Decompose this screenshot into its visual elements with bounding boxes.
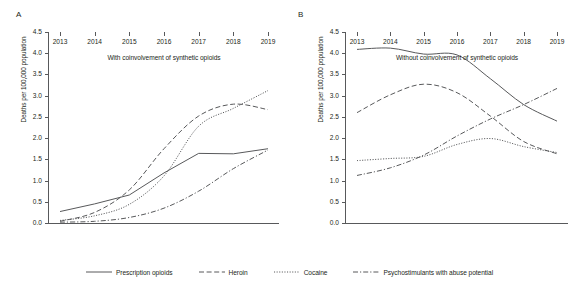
legend-label: Heroin <box>229 269 248 276</box>
x-axis-tick <box>164 32 165 36</box>
y-axis-tick: 4.5 <box>45 32 49 33</box>
y-axis-tick-label: 1.5 <box>33 155 42 162</box>
y-axis-tick-label: 3.5 <box>330 70 339 77</box>
x-axis-tick <box>390 32 391 36</box>
y-axis-tick-label: 3.0 <box>330 92 339 99</box>
legend-item: Heroin <box>199 268 248 276</box>
y-axis-tick: 3.0 <box>45 96 49 97</box>
y-axis-tick-label: 1.0 <box>33 177 42 184</box>
x-axis-tick <box>357 32 358 36</box>
x-axis-tick-label: 2019 <box>550 38 565 45</box>
x-axis-tick <box>268 32 269 36</box>
x-axis-tick-label: 2015 <box>416 38 431 45</box>
y-axis-tick-label: 4.5 <box>330 28 339 35</box>
plot-area-a: With coinvolvement of synthetic opioids … <box>48 32 279 224</box>
y-axis-tick: 1.5 <box>342 159 346 160</box>
x-axis-tick <box>557 32 558 36</box>
y-axis-tick: 0.5 <box>45 202 49 203</box>
y-axis-tick-label: 1.5 <box>330 155 339 162</box>
x-axis-label-b: Without coinvolvement of synthetic opioi… <box>346 54 568 61</box>
legend-line-swatch <box>274 268 300 276</box>
x-axis-tick <box>490 32 491 36</box>
series-line-psychostimulants-with-abuse-potential <box>357 88 557 175</box>
y-axis-tick: 4.0 <box>342 53 346 54</box>
x-axis-tick <box>129 32 130 36</box>
y-axis-tick-label: 2.0 <box>33 134 42 141</box>
x-axis-tick <box>424 32 425 36</box>
legend-item: Prescription opioids <box>86 268 173 276</box>
y-axis-tick: 3.0 <box>342 96 346 97</box>
x-axis-tick-label: 2013 <box>53 38 68 45</box>
x-axis-tick-label: 2016 <box>157 38 172 45</box>
x-axis-tick-label: 2019 <box>261 38 276 45</box>
y-axis-tick: 1.5 <box>45 159 49 160</box>
y-axis-tick-label: 4.0 <box>330 49 339 56</box>
y-axis-tick: 2.5 <box>45 117 49 118</box>
series-line-psychostimulants-with-abuse-potential <box>60 150 268 222</box>
figure-two-panel-line-chart: A Deaths per 100,000 population With coi… <box>0 0 579 289</box>
legend-line-swatch <box>199 268 225 276</box>
y-axis-tick-label: 2.0 <box>330 134 339 141</box>
legend-line-swatch <box>353 268 379 276</box>
y-axis-label-b: Deaths per 100,000 population <box>317 10 324 150</box>
y-axis-tick-label: 4.0 <box>33 49 42 56</box>
y-axis-tick-label: 0.5 <box>33 198 42 205</box>
y-axis-tick: 2.0 <box>45 138 49 139</box>
legend-item: Cocaine <box>274 268 328 276</box>
x-axis-tick-label: 2013 <box>350 38 365 45</box>
y-axis-tick-label: 0.0 <box>33 219 42 226</box>
x-axis-tick <box>60 32 61 36</box>
y-axis-label-a: Deaths per 100,000 population <box>20 10 27 150</box>
x-axis-tick-label: 2018 <box>226 38 241 45</box>
y-axis-tick-label: 3.5 <box>33 70 42 77</box>
y-axis-tick: 3.5 <box>45 74 49 75</box>
legend-line-swatch <box>86 268 112 276</box>
y-axis-tick-label: 2.5 <box>33 113 42 120</box>
y-axis-tick-label: 2.5 <box>330 113 339 120</box>
x-axis-tick-label: 2014 <box>87 38 102 45</box>
x-axis-tick <box>233 32 234 36</box>
y-axis-tick: 1.0 <box>45 181 49 182</box>
x-axis-tick <box>524 32 525 36</box>
legend-label: Cocaine <box>304 269 328 276</box>
x-axis-tick <box>457 32 458 36</box>
series-line-heroin <box>60 104 268 221</box>
y-axis-tick: 1.0 <box>342 181 346 182</box>
plot-area-b: Without coinvolvement of synthetic opioi… <box>345 32 568 224</box>
x-axis-tick-label: 2015 <box>122 38 137 45</box>
y-axis-tick-label: 0.0 <box>330 219 339 226</box>
x-axis-tick <box>199 32 200 36</box>
x-axis-tick-label: 2014 <box>383 38 398 45</box>
y-axis-tick-label: 4.5 <box>33 28 42 35</box>
y-axis-tick: 2.0 <box>342 138 346 139</box>
x-axis-tick-label: 2017 <box>191 38 206 45</box>
series-line-prescription-opioids <box>60 149 268 212</box>
y-axis-tick: 0.0 <box>342 223 346 224</box>
y-axis-tick: 3.5 <box>342 74 346 75</box>
legend-label: Prescription opioids <box>116 269 173 276</box>
y-axis-tick: 0.0 <box>45 223 49 224</box>
y-axis-tick: 4.0 <box>45 53 49 54</box>
y-axis-tick-label: 3.0 <box>33 92 42 99</box>
x-axis-tick <box>95 32 96 36</box>
x-axis-tick-label: 2017 <box>483 38 498 45</box>
series-line-cocaine <box>357 139 557 161</box>
y-axis-tick-label: 1.0 <box>330 177 339 184</box>
y-axis-tick: 4.5 <box>342 32 346 33</box>
chart-legend: Prescription opioidsHeroinCocainePsychos… <box>0 262 579 282</box>
y-axis-tick: 0.5 <box>342 202 346 203</box>
x-axis-tick-label: 2016 <box>450 38 465 45</box>
legend-item: Psychostimulants with abuse potential <box>353 268 493 276</box>
series-line-cocaine <box>60 91 268 221</box>
panel-label-b: B <box>298 10 304 19</box>
y-axis-tick: 2.5 <box>342 117 346 118</box>
y-axis-tick-label: 0.5 <box>330 198 339 205</box>
series-line-heroin <box>357 84 557 154</box>
chart-panel-b: B Deaths per 100,000 population Without … <box>289 0 578 256</box>
chart-panel-a: A Deaths per 100,000 population With coi… <box>0 0 289 256</box>
x-axis-tick-label: 2018 <box>516 38 531 45</box>
x-axis-label-a: With coinvolvement of synthetic opioids <box>49 54 279 61</box>
legend-label: Psychostimulants with abuse potential <box>383 269 493 276</box>
